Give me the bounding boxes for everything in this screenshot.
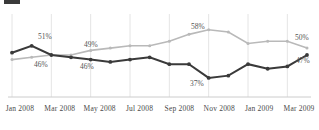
data-point xyxy=(285,65,289,69)
data-point xyxy=(30,44,34,48)
data-label-dark-37: 37% xyxy=(190,79,204,88)
data-point xyxy=(167,62,171,66)
data-point xyxy=(286,40,289,43)
data-point xyxy=(306,47,309,50)
x-axis-labels: Jan 2008Mar 2008May 2008Jul 2008Sep 2008… xyxy=(0,104,319,120)
data-point xyxy=(108,60,112,64)
data-point xyxy=(148,55,152,59)
data-point xyxy=(207,76,211,80)
data-label-dark-46: 46% xyxy=(80,62,94,71)
x-axis-tick-label: Jan 2009 xyxy=(239,104,279,120)
data-point xyxy=(89,58,93,62)
data-point xyxy=(129,44,132,47)
dark-series-line xyxy=(12,46,307,78)
data-point xyxy=(266,40,269,43)
x-axis-tick-label: May 2008 xyxy=(80,104,120,120)
data-point xyxy=(11,58,14,61)
data-point xyxy=(227,31,230,34)
data-point xyxy=(109,47,112,50)
data-point xyxy=(49,53,53,57)
data-point xyxy=(89,49,92,52)
data-point xyxy=(10,51,14,55)
data-point xyxy=(226,74,230,78)
x-axis-tick-label: Sep 2008 xyxy=(160,104,200,120)
x-axis-tick-label: Jan 2008 xyxy=(0,104,40,120)
data-point xyxy=(246,62,250,66)
data-label-light-58: 58% xyxy=(191,22,205,31)
data-point xyxy=(247,42,250,45)
chart-plot-area xyxy=(0,10,319,98)
legend-swatch-icon xyxy=(4,0,20,4)
data-point xyxy=(69,55,73,59)
data-label-light-50: 50% xyxy=(295,33,309,42)
data-point xyxy=(188,33,191,36)
x-axis-tick-label: Nov 2008 xyxy=(199,104,239,120)
data-label-light-49: 49% xyxy=(84,40,98,49)
x-axis-tick-label: Mar 2008 xyxy=(40,104,80,120)
data-point xyxy=(168,40,171,43)
line-chart: 51% 46% 49% 46% 58% 37% 50% 47% Jan 2008… xyxy=(0,0,319,130)
data-point xyxy=(148,44,151,47)
dark-series-markers xyxy=(10,44,309,80)
data-point xyxy=(128,58,132,62)
data-label-dark-51: 51% xyxy=(38,32,52,41)
data-point xyxy=(207,28,210,31)
x-axis-tick-label: Jul 2008 xyxy=(120,104,160,120)
data-point xyxy=(266,67,270,71)
data-label-light-46: 46% xyxy=(34,60,48,69)
data-label-dark-47: 47% xyxy=(296,56,310,65)
x-axis-tick-label: Mar 2009 xyxy=(279,104,319,120)
data-point xyxy=(30,56,33,59)
data-point xyxy=(187,62,191,66)
